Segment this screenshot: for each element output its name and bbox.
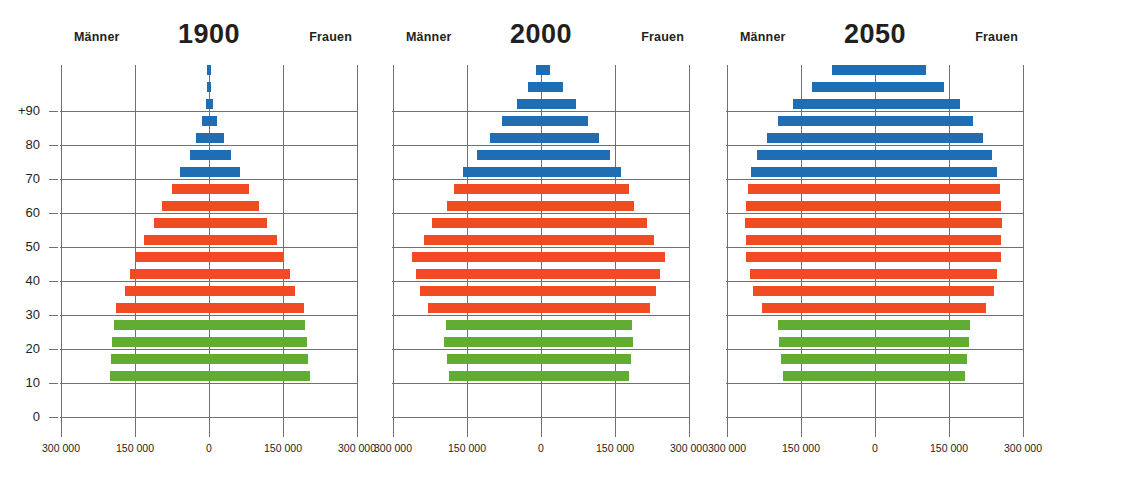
x-axis-tick-label: 300 000 <box>708 442 746 454</box>
bar-men-15-19 <box>778 320 875 330</box>
bar-women-75-79 <box>209 116 217 126</box>
bar-women-50-54 <box>875 201 1001 211</box>
bar-men-60-64 <box>463 167 541 177</box>
y-axis-tick <box>49 417 58 418</box>
y-gridline <box>60 145 358 146</box>
x-axis-tick-label: 0 <box>872 442 878 454</box>
y-gridline <box>726 315 1024 316</box>
y-gridline <box>60 349 358 350</box>
bar-women-5-9 <box>875 354 967 364</box>
y-axis-tick <box>49 247 58 248</box>
y-gridline <box>726 145 1024 146</box>
bar-men-25-29 <box>420 286 541 296</box>
y-axis-tick <box>49 145 58 146</box>
x-axis-tick <box>61 428 62 437</box>
bar-men-15-19 <box>114 320 209 330</box>
bar-women-55-59 <box>541 184 629 194</box>
bar-women-40-44 <box>875 235 1001 245</box>
bar-women-25-29 <box>541 286 656 296</box>
bar-women-75-79 <box>875 116 973 126</box>
y-gridline <box>392 349 690 350</box>
bar-men-0-4 <box>783 371 875 381</box>
y-gridline <box>726 417 1024 418</box>
bar-women-40-44 <box>541 235 654 245</box>
bar-women-15-19 <box>875 320 970 330</box>
x-axis-tick <box>1023 428 1024 437</box>
x-axis-tick-label: 300 000 <box>374 442 412 454</box>
bar-women-90+ <box>875 65 926 75</box>
bar-women-55-59 <box>209 184 249 194</box>
y-axis-tick-label: 40 <box>0 273 40 288</box>
bar-men-75-79 <box>502 116 541 126</box>
y-axis-tick <box>49 281 58 282</box>
y-gridline <box>60 247 358 248</box>
bar-women-65-69 <box>875 150 992 160</box>
x-axis-tick-label: 150 000 <box>596 442 634 454</box>
y-axis-tick <box>49 179 58 180</box>
bar-women-85-89 <box>209 82 211 92</box>
bar-women-45-49 <box>209 218 267 228</box>
x-axis-tick <box>209 428 210 437</box>
bar-men-65-69 <box>477 150 541 160</box>
y-axis-tick <box>49 383 58 384</box>
y-gridline <box>392 111 690 112</box>
bar-women-0-4 <box>875 371 965 381</box>
bar-women-40-44 <box>209 235 277 245</box>
bar-men-35-39 <box>136 252 209 262</box>
x-axis-tick <box>689 428 690 437</box>
bar-men-35-39 <box>412 252 541 262</box>
x-axis-tick <box>615 428 616 437</box>
bar-men-45-49 <box>745 218 875 228</box>
bar-women-50-54 <box>209 201 259 211</box>
bar-women-10-14 <box>541 337 633 347</box>
y-gridline <box>60 417 358 418</box>
bar-men-40-44 <box>424 235 541 245</box>
bar-women-15-19 <box>209 320 305 330</box>
bar-women-65-69 <box>209 150 231 160</box>
y-axis-tick-label: +90 <box>0 103 40 118</box>
y-axis-tick-label: 20 <box>0 341 40 356</box>
bar-men-65-69 <box>190 150 209 160</box>
women-label: Frauen <box>641 30 684 44</box>
bar-men-30-34 <box>130 269 209 279</box>
bar-men-80-84 <box>517 99 541 109</box>
bar-men-30-34 <box>750 269 875 279</box>
plot-area: 300 000150 0000150 000300 000 <box>392 65 690 428</box>
y-gridline <box>726 247 1024 248</box>
x-axis-tick <box>949 428 950 437</box>
y-gridline <box>392 315 690 316</box>
bar-women-0-4 <box>209 371 310 381</box>
bar-men-5-9 <box>781 354 875 364</box>
y-gridline <box>60 281 358 282</box>
bar-men-40-44 <box>144 235 209 245</box>
y-gridline <box>726 281 1024 282</box>
panel-header: Männer2000Frauen <box>392 24 690 48</box>
bar-women-85-89 <box>875 82 944 92</box>
plot-area: 300 000150 0000150 000300 000 <box>726 65 1024 428</box>
y-gridline <box>726 349 1024 350</box>
bar-men-25-29 <box>125 286 209 296</box>
bar-men-70-74 <box>767 133 875 143</box>
bar-women-10-14 <box>209 337 307 347</box>
y-gridline <box>60 179 358 180</box>
pyramid-panel-2000: Männer2000Frauen300 000150 0000150 00030… <box>392 0 690 499</box>
x-axis-tick-label: 150 000 <box>264 442 302 454</box>
bar-women-30-34 <box>209 269 290 279</box>
x-axis-tick-label: 0 <box>538 442 544 454</box>
y-gridline <box>392 213 690 214</box>
bar-women-60-64 <box>541 167 621 177</box>
bar-women-80-84 <box>875 99 960 109</box>
y-axis-tick-label: 70 <box>0 171 40 186</box>
bar-women-85-89 <box>541 82 563 92</box>
bar-men-20-24 <box>762 303 875 313</box>
y-axis-tick-label: 50 <box>0 239 40 254</box>
y-gridline <box>392 417 690 418</box>
x-axis-tick <box>467 428 468 437</box>
bar-men-90+ <box>832 65 875 75</box>
bar-men-55-59 <box>454 184 541 194</box>
bar-men-50-54 <box>162 201 209 211</box>
x-axis-tick-label: 150 000 <box>448 442 486 454</box>
bar-men-75-79 <box>778 116 875 126</box>
bar-women-60-64 <box>875 167 997 177</box>
bar-men-55-59 <box>172 184 209 194</box>
